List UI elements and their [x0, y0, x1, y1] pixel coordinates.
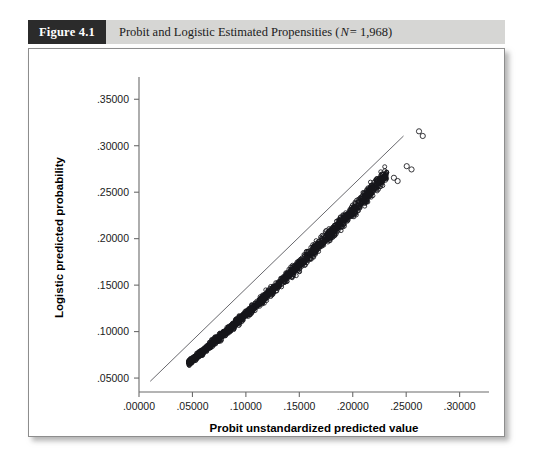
- y-tick-label: .25000: [97, 186, 129, 198]
- figure-caption: Probit and Logistic Estimated Propensiti…: [106, 20, 505, 44]
- identity-reference-line: [150, 136, 403, 381]
- figure-caption-suffix: = 1,968): [350, 25, 392, 40]
- figure-root: Figure 4.1 Probit and Logistic Estimated…: [0, 0, 555, 459]
- data-point-outlier: [404, 164, 409, 169]
- x-tick-label: .20000: [337, 400, 369, 412]
- figure-panel: .05000.10000.15000.20000.25000.30000.350…: [28, 48, 505, 437]
- y-tick-label: .15000: [97, 279, 129, 291]
- x-tick-label: .10000: [230, 400, 262, 412]
- y-axis-title: Logistic predicted probability: [53, 156, 65, 318]
- data-point-outlier: [409, 167, 414, 172]
- x-tick-label: .25000: [390, 400, 422, 412]
- scatter-plot: .05000.10000.15000.20000.25000.30000.350…: [29, 49, 504, 436]
- y-tick-label: .20000: [97, 232, 129, 244]
- x-tick-label: .15000: [283, 400, 315, 412]
- figure-header: Figure 4.1 Probit and Logistic Estimated…: [28, 20, 505, 44]
- x-tick-label: .05000: [176, 400, 208, 412]
- x-axis-ticks: .00000.05000.10000.15000.20000.25000.300…: [123, 392, 476, 412]
- x-tick-label: .30000: [444, 400, 476, 412]
- plot-canvas: .05000.10000.15000.20000.25000.30000.350…: [29, 49, 504, 436]
- y-tick-label: .05000: [97, 372, 129, 384]
- data-point: [383, 165, 387, 169]
- data-point-cloud: [187, 129, 426, 368]
- y-tick-label: .10000: [97, 325, 129, 337]
- x-axis-title: Probit unstandardized predicted value: [210, 422, 419, 434]
- data-point-outlier: [395, 178, 400, 183]
- figure-caption-prefix: Probit and Logistic Estimated Propensiti…: [119, 25, 339, 40]
- y-axis-ticks: .05000.10000.15000.20000.25000.30000.350…: [97, 93, 139, 384]
- x-tick-label: .00000: [123, 400, 155, 412]
- data-point-outlier: [420, 133, 425, 138]
- y-tick-label: .35000: [97, 93, 129, 105]
- figure-caption-n-symbol: N: [339, 25, 349, 40]
- data-point-outlier: [416, 129, 421, 134]
- y-tick-label: .30000: [97, 140, 129, 152]
- figure-number-badge: Figure 4.1: [28, 20, 106, 44]
